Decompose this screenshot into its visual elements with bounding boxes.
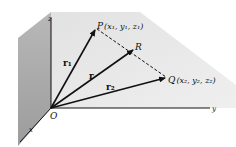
point-p-label: P(x₁, y₁, z₁) [96,21,143,31]
vector-r1-label: r₁ [63,58,72,68]
z-axis-label: z [47,15,52,23]
vector-r2-label: r₂ [106,82,115,92]
vector-r-label: r [89,71,94,81]
point-q-coords: (x₂, y₂, z₂) [176,76,215,85]
point-r-label: R [134,42,142,52]
vector-diagram: z y x O P(x₁, y₁, z₁) R Q(x₂, y₂, z₂) r₁… [0,0,236,147]
point-p-name: P [96,21,104,31]
x-axis-label: x [29,126,33,134]
point-q-name: Q [168,75,176,85]
origin-label: O [50,111,58,121]
point-p-coords: (x₁, y₁, z₁) [104,22,143,31]
point-q-label: Q(x₂, y₂, z₂) [168,75,216,85]
